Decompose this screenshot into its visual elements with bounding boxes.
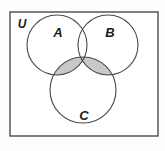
venn-diagram-figure: U A B C [0,0,165,151]
set-label-b: B [105,25,114,40]
set-label-c: C [79,108,89,123]
universe-label: U [18,17,27,31]
set-label-a: A [52,25,62,40]
venn-diagram-canvas: U A B C [0,0,165,151]
